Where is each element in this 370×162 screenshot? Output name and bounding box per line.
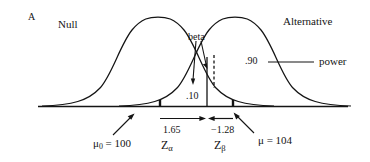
null-curve-label: Null: [58, 19, 78, 30]
mu-null-pointer-arrow: [113, 114, 135, 135]
z-alpha-value-label: 1.65: [163, 125, 181, 135]
beta-label: beta: [188, 32, 205, 42]
beta-area-label: .10: [186, 91, 199, 101]
z-beta-arrow: [208, 116, 233, 121]
mu-null-value: = 100: [106, 137, 131, 149]
z-alpha-subscript: α: [168, 143, 173, 153]
z-alpha-arrow: [160, 116, 206, 121]
alternative-curve-label: Alternative: [283, 16, 332, 27]
null-distribution-curve: [42, 17, 274, 106]
alternative-distribution-curve: [119, 17, 351, 106]
mu-null-label: μ0 = 100: [93, 138, 131, 151]
power-label: power: [319, 56, 347, 67]
mu-null-subscript: 0: [99, 142, 103, 151]
power-area-label: .90: [245, 56, 258, 66]
z-beta-symbol-label: Zβ: [214, 139, 226, 153]
z-beta-value-label: −1.28: [211, 125, 234, 135]
panel-letter: A: [28, 12, 35, 22]
z-beta-subscript: β: [221, 143, 225, 153]
mu-alternative-label: μ = 104: [258, 135, 292, 146]
mu-alternative-pointer-arrow: [234, 113, 254, 133]
power-analysis-figure: A Null Alternative beta .10 .90 power 1.…: [0, 0, 370, 162]
z-alpha-symbol-label: Zα: [161, 139, 173, 153]
